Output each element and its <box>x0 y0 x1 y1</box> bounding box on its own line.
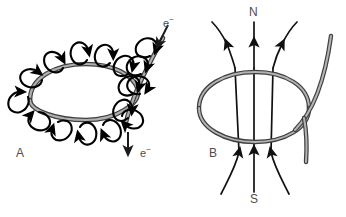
field-line-right-lower <box>271 152 289 194</box>
magnetic-field-lines-b <box>212 22 297 194</box>
south-pole-label: S <box>250 193 258 205</box>
panel-b: B N S <box>173 0 346 217</box>
panel-b-label: B <box>209 147 217 159</box>
electron-label-out: e− <box>140 146 151 159</box>
panel-a-label: A <box>16 147 24 159</box>
field-line-left-lower <box>221 152 239 194</box>
field-line-left-upper <box>227 44 235 68</box>
panel-a-drawing <box>0 0 173 217</box>
wire-conductor-b <box>199 36 331 162</box>
field-line-right-upper <box>273 44 282 68</box>
panel-b-drawing <box>173 0 346 217</box>
figure-canvas: A e− e− <box>0 0 346 217</box>
panel-a: A e− e− <box>0 0 173 217</box>
north-pole-label: N <box>249 6 258 18</box>
